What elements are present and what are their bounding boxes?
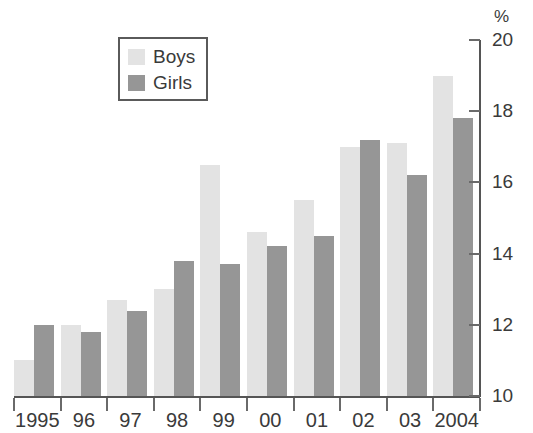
x-axis-label-02: 02 [340, 410, 387, 431]
y-axis-tick-18 [469, 110, 480, 112]
bar-girls-98 [174, 261, 194, 396]
y-axis-tick-20 [469, 39, 480, 41]
bar-girls-96 [81, 332, 101, 396]
x-axis-label-1995: 1995 [14, 410, 61, 431]
x-axis-label-98: 98 [154, 410, 201, 431]
bar-girls-99 [220, 264, 240, 396]
x-axis-label-00: 00 [247, 410, 294, 431]
bar-boys-02 [340, 147, 360, 396]
y-axis-label-14: 14 [492, 244, 513, 263]
bar-chart: % Boys Girls 101214161820199596979899000… [0, 0, 533, 433]
y-axis-unit-label: % [494, 8, 509, 25]
y-axis-label-18: 18 [492, 101, 513, 120]
x-axis-label-01: 01 [294, 410, 341, 431]
legend-label-boys: Boys [153, 46, 195, 68]
y-axis-line [479, 40, 481, 397]
bar-girls-01 [314, 236, 334, 396]
bar-boys-00 [247, 232, 267, 396]
y-axis-tick-14 [469, 253, 480, 255]
bar-girls-03 [407, 175, 427, 396]
x-axis-label-96: 96 [61, 410, 108, 431]
y-axis-label-16: 16 [492, 172, 513, 191]
x-axis-label-97: 97 [107, 410, 154, 431]
legend-swatch-girls-icon [128, 75, 145, 91]
bar-girls-2004 [453, 118, 473, 396]
plot-area [0, 0, 480, 397]
bar-boys-2004 [433, 76, 453, 396]
legend-label-girls: Girls [153, 72, 192, 94]
x-axis-label-03: 03 [387, 410, 434, 431]
bar-boys-98 [154, 289, 174, 396]
bar-boys-97 [107, 300, 127, 396]
bar-girls-1995 [34, 325, 54, 396]
y-axis-tick-10 [469, 395, 480, 397]
bar-girls-02 [360, 140, 380, 396]
bar-boys-01 [294, 200, 314, 396]
bar-boys-99 [200, 165, 220, 396]
x-axis-label-99: 99 [200, 410, 247, 431]
bar-boys-96 [61, 325, 81, 396]
x-axis-label-2004: 2004 [433, 410, 480, 431]
y-axis-label-10: 10 [492, 386, 513, 405]
y-axis-tick-12 [469, 324, 480, 326]
legend: Boys Girls [118, 37, 208, 101]
bar-boys-1995 [14, 360, 34, 396]
y-axis-label-12: 12 [492, 315, 513, 334]
bar-boys-03 [387, 143, 407, 396]
legend-swatch-boys-icon [128, 49, 145, 65]
bar-girls-00 [267, 246, 287, 396]
y-axis-tick-16 [469, 181, 480, 183]
y-axis-label-20: 20 [492, 30, 513, 49]
bar-girls-97 [127, 311, 147, 396]
